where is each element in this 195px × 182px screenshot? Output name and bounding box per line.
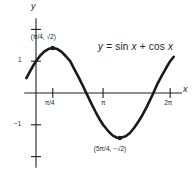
x-tick-label-pi: π bbox=[101, 100, 106, 107]
y-axis-label: y bbox=[31, 2, 36, 11]
x-tick-label-2pi: 2π bbox=[164, 100, 172, 107]
plot-area bbox=[0, 0, 195, 182]
maximum-point-label: (π/4, √2) bbox=[31, 34, 56, 41]
y-tick-label-one: 1 bbox=[18, 57, 22, 64]
y-tick-label-neg-one: −1 bbox=[14, 121, 21, 128]
minimum-point-label: (5π/4, −√2) bbox=[94, 146, 126, 153]
x-tick-label-pi-over-4: π/4 bbox=[45, 100, 55, 107]
x-axis-label: x bbox=[183, 85, 188, 94]
equation-label: y = sin x + cos x bbox=[98, 42, 173, 52]
graph-figure: y x π/4 π 2π 1 −1 (π/4, √2) (5π/4, −√2) … bbox=[0, 0, 195, 182]
